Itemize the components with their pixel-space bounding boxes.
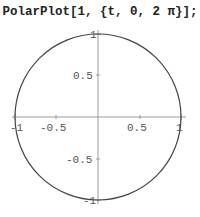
x-tick-label: 0.5	[127, 122, 147, 134]
y-tick-label: -1	[83, 195, 97, 207]
x-tick-label: -0.5	[40, 122, 66, 134]
x-tick-label: -1	[10, 122, 24, 134]
x-tick-label: 1	[176, 122, 183, 134]
y-tick-label: 1	[90, 29, 97, 41]
polar-plot: -1 -0.5 0.5 1 1 0.5 -0.5 -1	[0, 0, 200, 217]
y-tick-label: 0.5	[73, 70, 93, 82]
y-tick-label: -0.5	[66, 154, 92, 166]
